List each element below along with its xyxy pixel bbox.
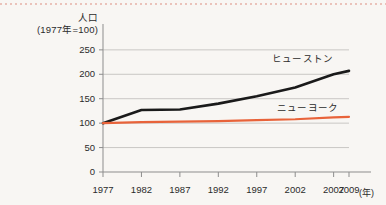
x-axis-unit-label: (年) <box>359 186 374 199</box>
y-tick-marks-group <box>99 50 103 172</box>
series-lines-group <box>103 71 349 123</box>
series-label-newyork: ニューヨーク <box>277 100 338 114</box>
series-label-houston: ヒューストン <box>272 51 333 65</box>
x-tick-label: 1997 <box>246 185 267 195</box>
x-tick-marks-group <box>103 172 349 177</box>
y-tick-label: 0 <box>61 167 95 177</box>
x-tick-label: 2002 <box>285 185 306 195</box>
series-line-newyork <box>103 117 349 123</box>
x-tick-label: 1992 <box>208 185 229 195</box>
axes-group <box>103 24 371 172</box>
y-tick-label: 200 <box>61 69 95 79</box>
y-tick-label: 50 <box>61 143 95 153</box>
dotted-rule-decoration <box>0 3 386 5</box>
x-tick-label: 2009 <box>338 185 359 195</box>
y-tick-label: 150 <box>61 94 95 104</box>
x-tick-label: 1977 <box>92 185 113 195</box>
y-tick-label: 100 <box>61 118 95 128</box>
series-line-houston <box>103 71 349 123</box>
y-axis-title-baseline-note: (1977年=100) <box>0 24 98 36</box>
x-tick-label: 1982 <box>131 185 152 195</box>
y-tick-label: 250 <box>61 45 95 55</box>
population-index-line-chart: 人口 (1977年=100) (年) ヒューストン ニューヨーク 0501001… <box>0 0 386 205</box>
y-axis-title-main: 人口 <box>0 12 98 24</box>
x-tick-label: 1987 <box>169 185 190 195</box>
